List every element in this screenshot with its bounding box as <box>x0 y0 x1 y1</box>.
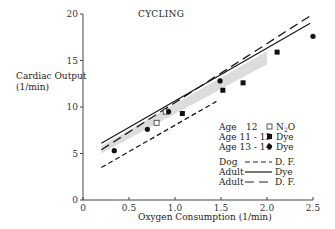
legend-label: Dog <box>219 157 238 167</box>
y-tick-label: 20 <box>67 9 79 19</box>
y-axis-title-line1: Cardiac Output <box>16 71 87 81</box>
legend-label: Adult <box>218 177 244 187</box>
filled-circle-icon <box>267 144 272 149</box>
y-axis-title-line2: (1/min) <box>16 82 49 92</box>
legend-label: Dye <box>276 132 294 142</box>
filled-circle-point <box>112 148 117 153</box>
filled-circle-point <box>145 127 150 132</box>
filled-square-point <box>180 111 185 116</box>
legend-label: Adult <box>218 167 244 177</box>
legend-label: Dye <box>275 167 293 177</box>
x-tick-label: 1.5 <box>214 203 229 213</box>
filled-circle-point <box>310 34 315 39</box>
filled-square-icon <box>267 134 272 139</box>
x-tick-label: 2.0 <box>260 203 275 213</box>
x-tick-label: 0.5 <box>122 203 137 213</box>
legend-label: Age <box>218 122 237 132</box>
legend-label: D. F. <box>275 177 295 187</box>
legend-label: Dye <box>276 142 294 152</box>
legend-label: Age 11 - 13 <box>218 132 271 142</box>
filled-square-point <box>275 50 280 55</box>
legend-label: Age 13 - 14 <box>218 142 271 152</box>
x-tick-label: 2.5 <box>306 203 321 213</box>
legend-label: D. F. <box>275 157 295 167</box>
x-tick-label: 1.0 <box>168 203 183 213</box>
chart-title: CYCLING <box>138 9 184 19</box>
y-tick-label: 0 <box>72 195 78 205</box>
filled-circle-point <box>217 78 222 83</box>
legend: Age 12 N2O Age 11 - 13 Dye Age 13 - 14 D… <box>218 122 295 187</box>
y-tick-label: 10 <box>67 102 79 112</box>
open-square-point <box>154 120 159 125</box>
x-tick-label: 0 <box>80 203 86 213</box>
legend-label: 12 <box>246 122 257 132</box>
short-dash-reference-line <box>101 101 216 167</box>
cardiac-output-chart: CYCLING Cardiac Output (1/min) Oxygen Co… <box>0 0 335 229</box>
filled-square-point <box>220 88 225 93</box>
y-tick-label: 15 <box>67 56 79 66</box>
y-tick-label: 5 <box>72 149 78 159</box>
filled-circle-point <box>166 109 171 114</box>
filled-square-point <box>241 80 246 85</box>
open-square-icon <box>267 124 272 129</box>
x-axis-title: Oxygen Consumption (1/min) <box>138 212 272 222</box>
